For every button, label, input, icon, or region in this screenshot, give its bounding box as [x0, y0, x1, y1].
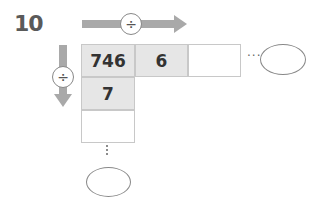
- column-cell-2: 7: [81, 77, 135, 110]
- column-cell-3-answer[interactable]: [81, 110, 135, 143]
- vertical-continuation-dots: [106, 145, 110, 155]
- divide-icon: ÷: [52, 66, 74, 88]
- row-result-oval[interactable]: [260, 44, 306, 75]
- column-result-oval[interactable]: [86, 167, 131, 197]
- cell-start: 746: [81, 44, 135, 77]
- row-cell-3-answer[interactable]: [188, 44, 241, 77]
- arrow-down-icon: [54, 94, 72, 107]
- row-cell-2: 6: [135, 44, 188, 77]
- divide-icon: ÷: [120, 13, 142, 35]
- problem-number: 10: [14, 11, 43, 36]
- arrow-right-icon: [174, 15, 187, 33]
